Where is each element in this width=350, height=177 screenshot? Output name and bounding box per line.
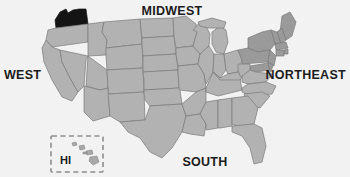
region-label-west: WEST bbox=[4, 68, 41, 82]
state-ok[interactable] bbox=[144, 88, 182, 106]
state-al[interactable] bbox=[218, 98, 232, 128]
state-sd[interactable] bbox=[142, 36, 176, 56]
region-label-south: SOUTH bbox=[182, 155, 227, 169]
state-wy[interactable] bbox=[106, 44, 143, 70]
island-molokai bbox=[83, 152, 87, 154]
state-co[interactable] bbox=[107, 68, 144, 94]
state-ne[interactable] bbox=[143, 54, 178, 72]
state-ri[interactable] bbox=[284, 49, 288, 54]
state-mt[interactable] bbox=[102, 19, 142, 48]
region-label-midwest: MIDWEST bbox=[141, 4, 202, 18]
state-ct[interactable] bbox=[276, 50, 284, 56]
island-kauai bbox=[72, 142, 77, 146]
island-oahu bbox=[79, 145, 85, 150]
state-nm[interactable] bbox=[108, 92, 145, 122]
us-regions-map: HI WEST MIDWEST NORTHEAST SOUTH bbox=[0, 0, 350, 177]
state-az[interactable] bbox=[84, 86, 110, 121]
state-nd[interactable] bbox=[140, 18, 174, 38]
state-ks[interactable] bbox=[143, 70, 179, 90]
hawaii-inset-label: HI bbox=[60, 154, 71, 166]
map-svg-canvas: HI WEST MIDWEST NORTHEAST SOUTH bbox=[0, 0, 350, 177]
region-label-northeast: NORTHEAST bbox=[266, 68, 347, 82]
